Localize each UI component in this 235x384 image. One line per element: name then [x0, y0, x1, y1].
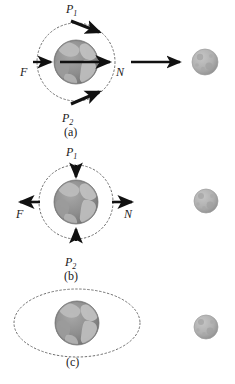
label-f-panel-a: F [20, 66, 27, 78]
label-p1-panel-a: P1 [66, 3, 77, 18]
panel-a [33, 21, 218, 104]
panel-b [20, 165, 218, 241]
moon-sphere-c [194, 315, 218, 339]
caption-c: (c) [66, 356, 79, 368]
label-f-panel-b: F [16, 208, 23, 220]
arrow-p1-tangential-a [71, 21, 99, 32]
label-p1-panel-b: P1 [66, 146, 77, 161]
arrow-p2-tangential-a [71, 92, 99, 104]
moon-sphere-b [194, 189, 218, 213]
caption-b: (b) [64, 270, 78, 282]
caption-a: (a) [64, 126, 77, 138]
figure-canvas [0, 0, 235, 384]
label-n-panel-a: N [116, 66, 124, 78]
moon-sphere-a [192, 49, 218, 75]
earth-sphere-b [54, 180, 98, 227]
label-n-panel-b: N [124, 208, 132, 220]
earth-sphere-a [54, 40, 98, 87]
earth-sphere-c [55, 301, 99, 348]
panel-c [14, 289, 218, 357]
tidal-force-figure: P1 P2 F N (a) P1 P2 F N (b) (c) [0, 0, 235, 384]
